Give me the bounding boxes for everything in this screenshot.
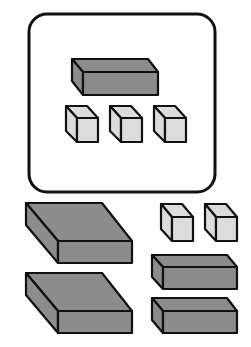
framed-rod <box>72 59 158 95</box>
loose-rod-2 <box>152 298 237 333</box>
loose-unit-cube-1 <box>161 204 193 241</box>
framed-unit-cube-1 <box>66 106 98 142</box>
loose-rod-1 <box>152 255 237 289</box>
loose-unit-cube-2 <box>205 204 237 241</box>
framed-unit-cube-3 <box>154 106 186 142</box>
flat-2 <box>26 273 132 333</box>
framed-unit-cube-2 <box>110 106 142 142</box>
group-frame <box>29 14 215 192</box>
flat-1 <box>26 203 132 263</box>
base-ten-blocks-diagram <box>0 0 251 347</box>
